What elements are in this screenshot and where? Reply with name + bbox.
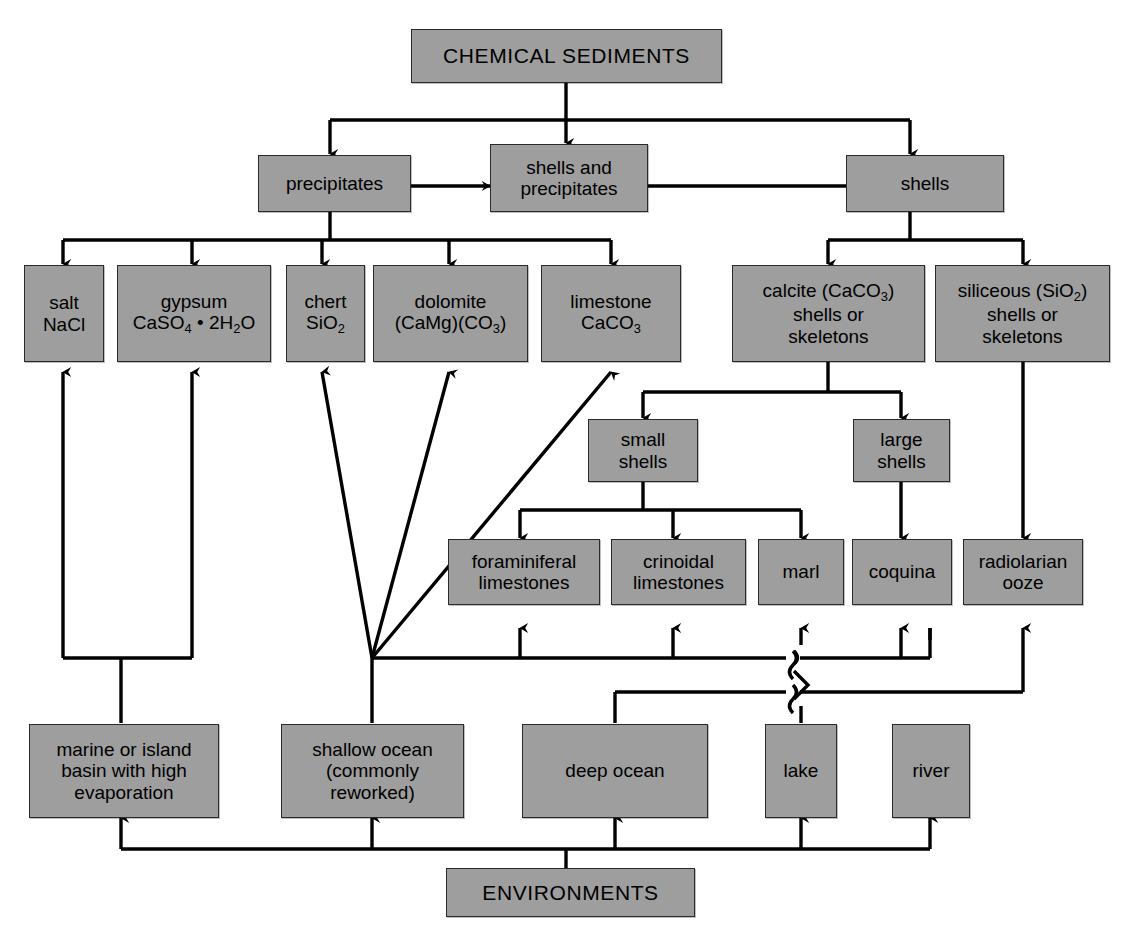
node-chemical-sediments-label: CHEMICAL SEDIMENTS (440, 44, 693, 68)
node-marl-label: marl (780, 561, 823, 582)
node-deep-ocean-label: deep ocean (562, 760, 667, 781)
node-gypsum-formula-b: • 2H (192, 312, 234, 333)
node-gypsum-formula-c: O (240, 312, 255, 333)
node-chert-formula: SiO (306, 312, 338, 333)
node-dolomite-label: dolomite(CaMg)(CO3) (392, 291, 510, 336)
node-shells-and-precipitates[interactable]: shells and precipitates (490, 144, 648, 212)
node-siliceous-line1-a: siliceous (SiO (958, 280, 1074, 301)
edge-marine-basin-to-evaporites (63, 372, 192, 723)
node-precipitates[interactable]: precipitates (258, 155, 411, 212)
node-chert[interactable]: chertSiO2 (286, 265, 365, 362)
edge-small-shells-bus (520, 482, 801, 510)
node-crinoidal-limestones-label: crinoidal limestones (630, 551, 727, 594)
node-dolomite-formula-b: ) (500, 312, 506, 333)
node-coquina-label: coquina (866, 561, 939, 582)
edge-shells-bus (828, 212, 1023, 240)
node-salt[interactable]: salt NaCl (24, 265, 104, 362)
node-crinoidal-limestones[interactable]: crinoidal limestones (611, 539, 746, 605)
node-gypsum-formula-a: CaSO (133, 312, 185, 333)
node-precipitates-label: precipitates (283, 173, 386, 194)
node-marine-basin[interactable]: marine or island basin with high evapora… (29, 724, 219, 818)
node-dolomite[interactable]: dolomite(CaMg)(CO3) (373, 265, 528, 362)
node-shells[interactable]: shells (846, 155, 1004, 212)
node-environments-label: ENVIRONMENTS (479, 881, 661, 905)
node-gypsum-line1: gypsum (161, 291, 228, 312)
node-large-shells-label: large shells (874, 429, 929, 472)
node-shallow-ocean-label: shallow ocean (commonly reworked) (309, 739, 435, 803)
edge-precipitates-bus (63, 212, 611, 240)
node-deep-ocean[interactable]: deep ocean (522, 724, 708, 818)
node-siliceous-sub: 2 (1074, 289, 1081, 304)
node-siliceous-line1-b: ) (1081, 280, 1087, 301)
node-marl[interactable]: marl (758, 539, 844, 605)
node-shells-label: shells (898, 173, 953, 194)
node-siliceous-line2: shells or (987, 304, 1058, 325)
node-chert-line1: chert (304, 291, 346, 312)
node-radiolarian-ooze[interactable]: radiolarian ooze (963, 539, 1083, 605)
node-dolomite-formula-a: (CaMg)(CO (395, 312, 493, 333)
edge-lake-to-marl (794, 628, 808, 723)
node-small-shells[interactable]: small shells (588, 419, 698, 482)
node-coquina[interactable]: coquina (852, 539, 952, 605)
node-river-label: river (910, 760, 953, 781)
node-calcite-line3: skeletons (788, 326, 868, 347)
node-marine-basin-label: marine or island basin with high evapora… (53, 739, 194, 803)
edge-shallow-ocean-bus (372, 628, 930, 679)
node-calcite-line1-b: ) (888, 280, 894, 301)
node-dolomite-line1: dolomite (415, 291, 487, 312)
node-calcite-sub: 3 (881, 289, 888, 304)
node-environments[interactable]: ENVIRONMENTS (446, 868, 695, 917)
node-foraminiferal-limestones-label: foraminiferal limestones (469, 551, 580, 594)
node-shells-and-precipitates-label: shells and precipitates (517, 157, 620, 200)
node-limestone-line1: limestone (570, 291, 651, 312)
edge-calcite-bus (643, 362, 901, 392)
node-siliceous-line3: skeletons (982, 326, 1062, 347)
node-foraminiferal-limestones[interactable]: foraminiferal limestones (448, 539, 600, 605)
node-chert-label: chertSiO2 (301, 291, 349, 336)
chemical-sediments-flowchart: CHEMICAL SEDIMENTS precipitates shells a… (0, 0, 1130, 942)
node-dolomite-sub: 3 (493, 321, 500, 336)
node-limestone[interactable]: limestoneCaCO3 (541, 265, 681, 362)
node-gypsum-sub-1: 4 (185, 321, 192, 336)
node-siliceous-shells[interactable]: siliceous (SiO2)shells orskeletons (935, 265, 1110, 362)
edge-chemical-sediments-bus (330, 83, 910, 120)
node-river[interactable]: river (892, 724, 970, 818)
node-small-shells-label: small shells (616, 429, 671, 472)
node-chert-sub: 2 (338, 321, 345, 336)
node-shallow-ocean[interactable]: shallow ocean (commonly reworked) (281, 724, 464, 818)
node-limestone-label: limestoneCaCO3 (567, 291, 654, 336)
node-large-shells[interactable]: large shells (853, 419, 950, 482)
node-gypsum-label: gypsumCaSO4 • 2H2O (130, 291, 258, 336)
node-limestone-sub: 3 (634, 321, 641, 336)
node-siliceous-shells-label: siliceous (SiO2)shells orskeletons (955, 280, 1091, 347)
node-calcite-shells-label: calcite (CaCO3)shells orskeletons (760, 280, 898, 347)
node-calcite-line2: shells or (793, 304, 864, 325)
node-radiolarian-ooze-label: radiolarian ooze (976, 551, 1071, 594)
node-lake-label: lake (781, 760, 822, 781)
node-calcite-line1-a: calcite (CaCO (763, 280, 881, 301)
edge-deep-ocean-to-radiolarian (615, 628, 1023, 723)
node-chemical-sediments[interactable]: CHEMICAL SEDIMENTS (411, 29, 722, 83)
node-limestone-formula: CaCO (581, 312, 634, 333)
node-lake[interactable]: lake (765, 724, 837, 818)
node-gypsum[interactable]: gypsumCaSO4 • 2H2O (117, 265, 271, 362)
node-calcite-shells[interactable]: calcite (CaCO3)shells orskeletons (732, 265, 925, 362)
node-salt-label: salt NaCl (40, 292, 88, 335)
